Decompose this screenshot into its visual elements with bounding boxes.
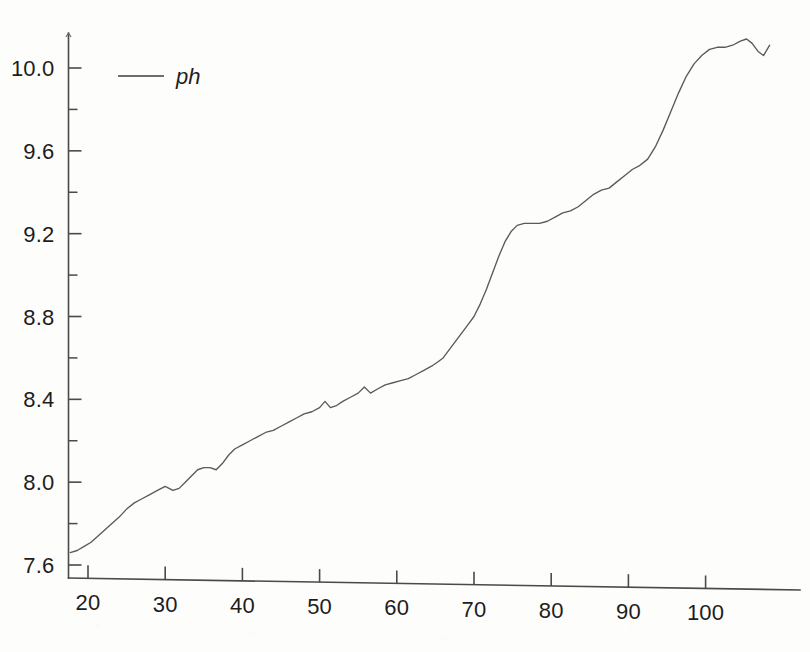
data-series-group [70,39,769,553]
x-axis-tick-label: 40 [230,593,255,618]
chart-figure: 7.68.08.48.89.29.610.0 20304050607080901… [0,0,810,652]
y-axis-tick-label: 7.6 [23,553,54,578]
x-axis-tick-label: 50 [307,594,332,619]
series-line-ph [70,39,769,553]
y-axis-tick-label: 8.8 [23,305,54,330]
y-axis-tick-label: 10.0 [11,56,55,81]
x-axis-tick-label: 20 [76,590,101,615]
x-axis-tick-label: 30 [153,592,178,617]
x-axis-line [69,578,801,590]
x-axis-tick-label: 90 [616,599,641,624]
axes [66,33,800,590]
chart-legend: ph [118,64,200,89]
x-axis-tick-labels: 2030405060708090100 [76,590,725,625]
y-axis-tick-labels: 7.68.08.48.89.29.610.0 [11,56,55,578]
x-axis-tick-label: 70 [462,597,487,622]
x-axis-tick-label: 100 [687,600,724,625]
legend-label: ph [175,64,200,89]
y-axis-tick-label: 8.0 [23,470,54,495]
x-axis-tick-label: 60 [384,595,409,620]
x-axis-tick-label: 80 [539,598,564,623]
line-chart-canvas: 7.68.08.48.89.29.610.0 20304050607080901… [0,0,810,652]
y-axis-tick-label: 8.4 [23,387,54,412]
tick-marks [69,68,706,588]
y-axis-tick-label: 9.2 [23,222,54,247]
y-axis-tick-label: 9.6 [23,139,54,164]
